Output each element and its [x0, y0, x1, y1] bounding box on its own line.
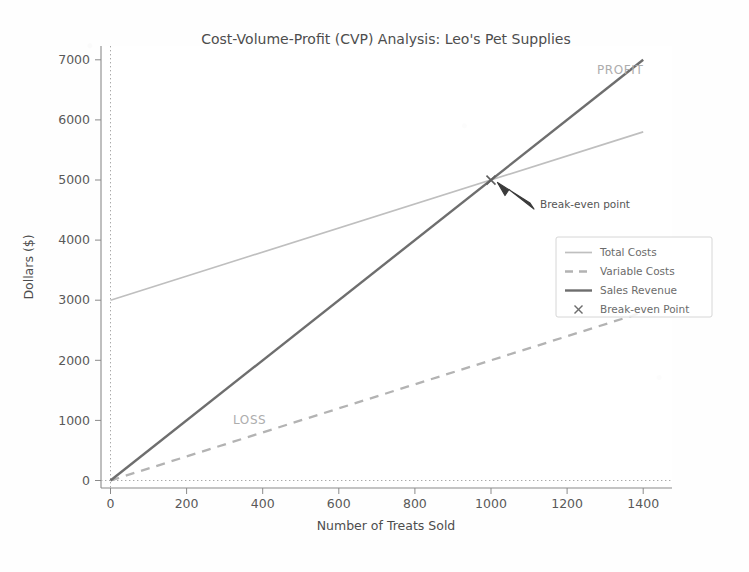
chart-title: Cost-Volume-Profit (CVP) Analysis: Leo's…: [201, 31, 571, 47]
y-tick-label: 0: [82, 473, 90, 488]
chart-legend[interactable]: Total Costs Variable Costs Sales Revenue…: [556, 237, 712, 317]
y-tick-label: 2000: [58, 353, 90, 368]
y-tick-label: 5000: [58, 172, 90, 187]
x-axis-label: Number of Treats Sold: [317, 518, 456, 533]
x-tick-label: 400: [251, 496, 275, 511]
y-tick-label: 3000: [58, 292, 90, 307]
legend-label: Variable Costs: [600, 265, 675, 277]
y-tick-label: 1000: [58, 413, 90, 428]
legend-label: Break-even Point: [600, 303, 689, 315]
legend-label: Total Costs: [599, 246, 657, 258]
legend-label: Sales Revenue: [600, 284, 677, 296]
x-tick-label: 200: [175, 496, 199, 511]
chart-canvas: Cost-Volume-Profit (CVP) Analysis: Leo's…: [0, 0, 749, 572]
x-tick-label: 1000: [475, 496, 507, 511]
y-tick-label: 6000: [58, 112, 90, 127]
x-tick-label: 1200: [551, 496, 583, 511]
x-tick-label: 0: [107, 496, 115, 511]
y-tick-label: 4000: [58, 232, 90, 247]
x-tick-label: 800: [403, 496, 427, 511]
loss-region-label: LOSS: [233, 413, 266, 427]
x-tick-label: 600: [327, 496, 351, 511]
y-axis-label: Dollars ($): [21, 234, 36, 299]
break-even-annotation-label: Break-even point: [540, 198, 630, 210]
x-tick-label: 1400: [627, 496, 659, 511]
y-tick-label: 7000: [58, 52, 90, 67]
profit-region-label: PROFIT: [597, 63, 643, 77]
cvp-chart-figure: Cost-Volume-Profit (CVP) Analysis: Leo's…: [0, 0, 749, 572]
